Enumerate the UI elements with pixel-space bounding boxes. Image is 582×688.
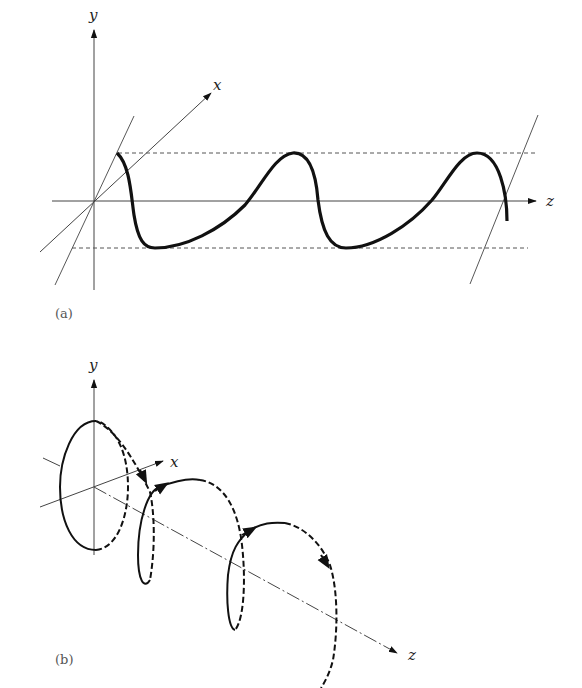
helix-segment2-dashed [200,480,244,630]
y-axis-label-b: y [88,356,98,374]
y-axis-label-a: y [88,6,98,24]
caption-a: (a) [55,306,73,321]
x-axis-a [40,93,211,252]
x-axis-stub-b [43,458,60,466]
x-axis-label-b: x [170,453,179,471]
helix-loop1-back [96,422,128,550]
polarization-diagram: y x z (a) y x z [0,0,582,688]
helix-segment1-dashed [96,421,154,580]
x-axis-b [40,461,163,507]
plane-line-right [470,115,538,284]
helix-loop1-front [60,421,96,550]
panel-a: y x z (a) [40,6,554,321]
x-axis-label-a: x [213,76,222,94]
z-axis-label-a: z [545,192,554,210]
z-axis-label-b: z [407,646,416,664]
linear-wave-curve [117,153,507,248]
helix-loop2-front [138,479,200,583]
helix-arrow-4 [321,555,326,563]
panel-b: y x z (b) [40,356,416,688]
caption-b: (b) [55,652,73,667]
